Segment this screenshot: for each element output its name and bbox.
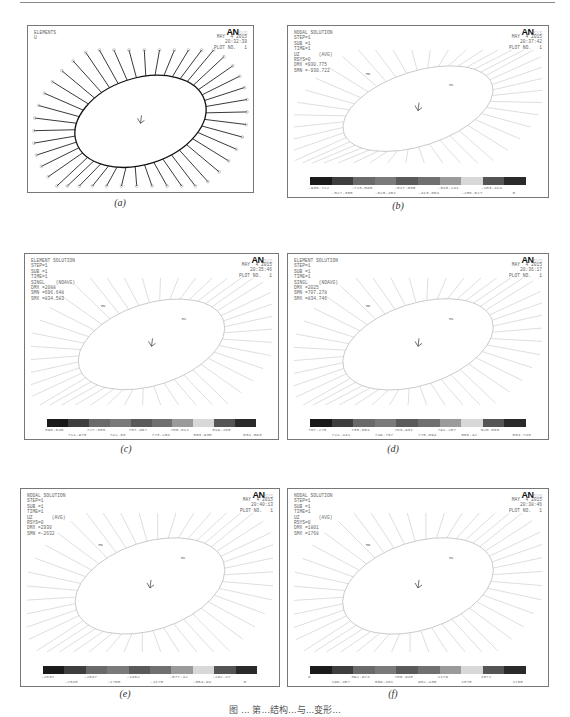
radial-cable-element [31, 356, 79, 360]
radial-cable-element [480, 513, 522, 547]
radial-cable-element [458, 50, 483, 66]
radial-cable-element [174, 379, 196, 405]
plot-info-line: U [34, 35, 56, 40]
radial-cable-element [125, 389, 133, 405]
legend-swatch [86, 666, 107, 674]
legend-value: 735.604 [351, 427, 369, 432]
radial-cable-element [295, 572, 348, 583]
radial-cable-element [370, 151, 388, 163]
legend-value: 803.938 [193, 432, 211, 437]
legend-value: 788.611 [170, 427, 188, 432]
legend-value: 742.63 [110, 432, 126, 437]
radial-cable-element [45, 545, 92, 570]
radial-cable-element [491, 581, 542, 585]
radial-cable-element [294, 347, 345, 350]
radial-cable-element [314, 625, 356, 652]
radial-cable-element [160, 278, 161, 300]
radial-cable-element [427, 278, 428, 300]
legend-swatch [418, 177, 440, 185]
radial-cable-element [409, 278, 416, 302]
legend-value: 778.094 [418, 432, 436, 437]
radial-cable-element [211, 513, 253, 547]
radial-cable-element [373, 278, 395, 309]
subfigure-label-f: (f) [373, 688, 413, 699]
radial-cable-element [392, 634, 400, 652]
radial-cable-element [201, 364, 241, 392]
radial-cable-element [469, 364, 510, 392]
legend-value: 982.435 [418, 679, 436, 684]
radial-cable-element [294, 133, 344, 150]
legend-swatch [332, 177, 354, 185]
figure-panel-b: MXMNNODAL SOLUTIONSTEP=1SUB =1TIME=1UZ (… [287, 25, 549, 198]
plot-plot-no: PLOT NO. 1 [509, 273, 542, 278]
legend-value: 792.257 [438, 427, 456, 432]
radial-cable-element [27, 597, 76, 600]
radial-cable-element [139, 513, 147, 541]
radial-cable-element [465, 513, 495, 540]
radial-cable-element [45, 93, 84, 110]
legend-value: 819.265 [212, 427, 230, 432]
radial-cable-element [172, 50, 188, 77]
radial-cable-element [201, 608, 243, 639]
legend-swatch [150, 666, 171, 674]
radial-cable-element [412, 50, 417, 70]
legend-swatch [310, 666, 332, 674]
legend-swatch [483, 419, 505, 427]
radial-cable-element [483, 595, 534, 613]
radial-cable-element [294, 368, 344, 385]
legend-value: -413.654 [418, 190, 439, 195]
radial-cable-element [303, 378, 350, 405]
plot-info-block: ELEMENT SOLUTIONSTEP=1SUB =1TIME=1SINGL … [31, 258, 75, 301]
radial-cable-element [47, 625, 89, 652]
legend-swatch [483, 177, 505, 185]
radial-cable-element [184, 375, 213, 405]
legend-value: -206.827 [461, 190, 482, 195]
radial-cable-element [75, 285, 110, 319]
radial-cable-element [193, 57, 224, 86]
radial-cable-element [57, 533, 99, 564]
legend-value: -292.47 [212, 674, 230, 679]
radial-cable-element [297, 102, 349, 109]
legend-value: 820.583 [481, 427, 499, 432]
figure-panel-e: MXMNNODAL SOLUTIONSTEP=1SUB =1TIME=1UZ (… [20, 488, 280, 687]
radial-cable-element [71, 521, 107, 558]
radial-cable-element [457, 278, 481, 299]
radial-cable-element [27, 586, 77, 590]
radial-cable-element [41, 148, 79, 167]
radial-cable-element [339, 388, 370, 405]
radial-cable-element [178, 513, 193, 538]
contour-legend-bar [310, 419, 526, 427]
radial-cable-element [193, 370, 228, 404]
legend-swatch [483, 666, 505, 674]
radial-cable-element [86, 52, 110, 87]
figure-panel-a: ELEMENTSUANSYSMAY 4 201520:32:39PLOT NO.… [27, 25, 254, 193]
legend-value: 0 [244, 679, 247, 684]
radial-cable-element [493, 558, 542, 568]
radial-cable-element [493, 572, 542, 575]
radial-cable-element [419, 147, 424, 163]
legend-swatch [64, 666, 85, 674]
plot-datetime-block: MAY 4 201520:40:13PLOT NO. 1 [240, 497, 273, 513]
legend-value: 834.593 [243, 432, 261, 437]
radial-cable-element [28, 572, 81, 584]
plot-datetime-block: MAY 4 201520:37:42PLOT NO. 1 [509, 34, 542, 50]
radial-cable-element [50, 308, 95, 331]
anchor-node-marker [223, 55, 226, 58]
plot-plot-no: PLOT NO. 1 [509, 508, 542, 513]
radial-cable-element [447, 278, 464, 299]
radial-cable-element [164, 383, 179, 405]
radial-cable-element [217, 521, 263, 551]
radial-cable-element [92, 166, 108, 186]
radial-cable-element [163, 159, 182, 186]
radial-cable-element [99, 50, 118, 84]
contour-legend-labels: 0392.974785.94811791572196.487589.461982… [310, 674, 540, 686]
radial-cable-element [224, 572, 273, 575]
radial-cable-element [343, 57, 377, 87]
radial-cable-element [202, 126, 243, 137]
legend-swatch [375, 666, 397, 674]
radial-cable-element [461, 614, 497, 651]
radial-cable-element [451, 375, 480, 405]
radial-cable-element [294, 122, 344, 127]
radial-cable-element [73, 631, 103, 652]
radial-cable-element [477, 602, 524, 627]
